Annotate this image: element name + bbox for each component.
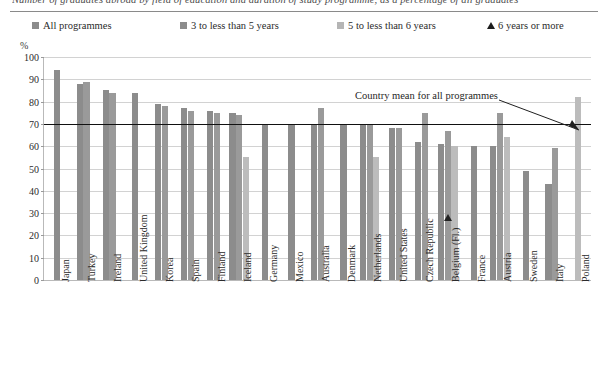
figure-root: Number of graduates abroad by field of e… bbox=[0, 0, 606, 381]
x-axis-label: Sweden bbox=[529, 250, 539, 282]
bar bbox=[181, 108, 187, 280]
y-axis-tick-mark bbox=[41, 79, 44, 80]
x-axis-label: Belgium (Fl.) bbox=[451, 228, 461, 282]
bar bbox=[77, 84, 83, 280]
y-axis-tick-mark bbox=[41, 57, 44, 58]
y-axis-tick-label: 70 bbox=[29, 118, 39, 129]
x-axis-label: United Kingdom bbox=[139, 215, 149, 283]
x-axis-label: Mexico bbox=[295, 251, 305, 282]
bar bbox=[389, 128, 395, 280]
x-axis-label: Finland bbox=[217, 251, 227, 282]
legend-triangle-icon bbox=[487, 22, 495, 29]
six-years-or-more-marker-icon bbox=[444, 214, 452, 221]
y-axis-tick-label: 0 bbox=[34, 275, 39, 286]
gridline bbox=[44, 79, 591, 80]
x-axis-label: Denmark bbox=[347, 245, 357, 282]
x-axis-label: Turkey bbox=[87, 253, 97, 282]
x-axis-label: Italy bbox=[555, 264, 565, 282]
bar bbox=[438, 144, 444, 280]
y-axis-tick-mark bbox=[41, 280, 44, 281]
x-axis-label: France bbox=[477, 255, 487, 282]
y-axis-unit-label: % bbox=[20, 40, 28, 51]
bar bbox=[311, 124, 317, 280]
legend-swatch-icon bbox=[337, 22, 344, 29]
y-axis-tick-label: 50 bbox=[29, 163, 39, 174]
y-axis-tick-label: 20 bbox=[29, 230, 39, 241]
y-axis-tick-mark bbox=[41, 102, 44, 103]
x-axis-label: Austria bbox=[503, 253, 513, 282]
x-axis-label: Ireland bbox=[113, 254, 123, 282]
plot-area: 0102030405060708090100 bbox=[43, 57, 591, 281]
country-mean-annotation: Country mean for all programmes bbox=[355, 90, 498, 101]
bar bbox=[162, 106, 168, 280]
bar bbox=[490, 146, 496, 280]
x-axis-label: Poland bbox=[581, 254, 591, 282]
legend-label: All programmes bbox=[43, 20, 112, 31]
bar bbox=[188, 111, 194, 280]
y-axis-tick-label: 40 bbox=[29, 185, 39, 196]
figure-title: Number of graduates abroad by field of e… bbox=[12, 0, 597, 6]
x-axis-label: Iceland bbox=[243, 253, 253, 282]
y-axis-tick-mark bbox=[41, 191, 44, 192]
legend-label: 6 years or more bbox=[498, 20, 564, 31]
legend-item-3-to-5-years: 3 to less than 5 years bbox=[180, 19, 279, 33]
legend-swatch-icon bbox=[180, 22, 187, 29]
x-axis-label: Netherlands bbox=[373, 234, 383, 282]
bar bbox=[109, 93, 115, 280]
legend-item-6-years-or-more: 6 years or more bbox=[487, 19, 564, 33]
bar bbox=[54, 70, 60, 280]
y-axis-tick-label: 60 bbox=[29, 141, 39, 152]
x-axis-label: Czech Republic bbox=[425, 218, 435, 282]
legend-item-all-programmes: All programmes bbox=[32, 19, 112, 33]
legend-label: 5 to less than 6 years bbox=[348, 20, 436, 31]
bar bbox=[360, 124, 366, 280]
legend-item-5-to-6-years: 5 to less than 6 years bbox=[337, 19, 436, 33]
y-axis-tick-label: 30 bbox=[29, 208, 39, 219]
x-axis-label: Spain bbox=[191, 259, 201, 282]
annotation-arrow-icon bbox=[497, 98, 587, 138]
y-axis-tick-label: 90 bbox=[29, 74, 39, 85]
x-axis-label: Japan bbox=[61, 259, 71, 282]
bar bbox=[552, 148, 558, 280]
y-axis-tick-mark bbox=[41, 169, 44, 170]
legend-swatch-icon bbox=[32, 22, 39, 29]
bar bbox=[415, 142, 421, 280]
y-axis-tick-mark bbox=[41, 146, 44, 147]
x-axis-label: Germany bbox=[269, 245, 279, 282]
x-axis-label: Korea bbox=[165, 258, 175, 282]
bar bbox=[229, 113, 235, 280]
bar bbox=[207, 111, 213, 280]
bar bbox=[155, 104, 161, 280]
x-axis-label: United States bbox=[399, 228, 409, 282]
y-axis-tick-mark bbox=[41, 258, 44, 259]
legend-label: 3 to less than 5 years bbox=[191, 20, 279, 31]
bar bbox=[83, 82, 89, 280]
y-axis-tick-label: 100 bbox=[24, 52, 39, 63]
x-axis-label: Australia bbox=[321, 245, 331, 282]
y-axis-tick-mark bbox=[41, 235, 44, 236]
chart-legend: All programmes 3 to less than 5 years 5 … bbox=[32, 19, 588, 33]
bar bbox=[545, 184, 551, 280]
title-divider bbox=[10, 11, 598, 12]
y-axis-tick-label: 10 bbox=[29, 252, 39, 263]
y-axis-tick-mark bbox=[41, 213, 44, 214]
gridline bbox=[44, 57, 591, 58]
x-axis-labels: JapanTurkeyIrelandUnited KingdomKoreaSpa… bbox=[43, 282, 590, 381]
bar bbox=[103, 90, 109, 280]
y-axis-tick-label: 80 bbox=[29, 96, 39, 107]
